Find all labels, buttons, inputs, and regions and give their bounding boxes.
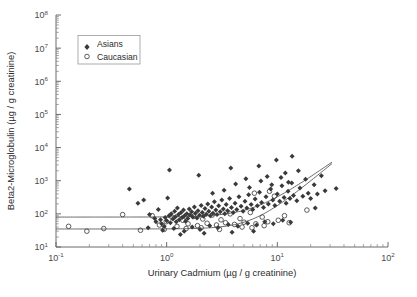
y-axis-tick-labels: 101102103104105106107108 bbox=[35, 9, 49, 253]
data-point bbox=[300, 194, 305, 199]
data-point bbox=[247, 185, 252, 190]
data-point bbox=[215, 212, 220, 217]
data-point bbox=[240, 225, 245, 230]
legend-label-caucasian: Caucasian bbox=[97, 52, 138, 62]
x-axis-title: Urinary Cadmium (µg / g creatinine) bbox=[148, 267, 297, 278]
data-point bbox=[294, 198, 299, 203]
data-point bbox=[227, 196, 232, 201]
data-point bbox=[290, 154, 295, 159]
data-point bbox=[233, 181, 238, 186]
data-point bbox=[147, 212, 152, 217]
data-point bbox=[192, 205, 197, 210]
x-tick-label: 100 bbox=[160, 251, 174, 263]
legend: Asians Caucasian bbox=[78, 36, 140, 65]
data-point bbox=[236, 194, 241, 199]
data-point bbox=[141, 198, 146, 203]
data-point bbox=[158, 217, 163, 222]
x-axis-ticks bbox=[56, 242, 388, 247]
data-point bbox=[253, 197, 258, 202]
data-point bbox=[216, 203, 221, 208]
data-point bbox=[305, 208, 310, 213]
data-point bbox=[287, 196, 292, 201]
data-point bbox=[241, 209, 246, 214]
data-point bbox=[120, 212, 125, 217]
y-tick-label: 105 bbox=[35, 108, 49, 120]
data-point bbox=[296, 168, 301, 173]
data-point bbox=[251, 229, 256, 234]
data-point bbox=[242, 199, 247, 204]
data-point bbox=[291, 193, 296, 198]
data-point bbox=[282, 213, 287, 218]
data-point bbox=[256, 163, 261, 168]
data-point bbox=[196, 173, 201, 178]
data-point bbox=[205, 201, 210, 206]
data-point bbox=[178, 232, 183, 237]
data-point bbox=[171, 226, 176, 231]
data-point bbox=[272, 203, 277, 208]
data-point bbox=[212, 199, 217, 204]
data-point bbox=[222, 188, 227, 193]
data-point bbox=[271, 221, 276, 226]
data-point bbox=[252, 191, 257, 196]
x-axis-tick-labels: 10-1100101102 bbox=[48, 251, 395, 263]
data-point bbox=[229, 205, 234, 210]
y-tick-label: 108 bbox=[35, 9, 49, 21]
data-point bbox=[203, 206, 208, 211]
data-point bbox=[312, 182, 317, 187]
data-point bbox=[274, 158, 279, 163]
scatter-plot-figure: 101102103104105106107108 10-1100101102 A… bbox=[0, 0, 417, 297]
data-point bbox=[246, 192, 251, 197]
y-axis-title: Beta2-Microglobulin (µg / g creatinine) bbox=[5, 52, 16, 211]
data-point bbox=[239, 204, 244, 209]
lower-fit bbox=[56, 164, 332, 229]
data-point bbox=[135, 201, 140, 206]
data-point bbox=[269, 182, 274, 187]
data-point bbox=[260, 215, 265, 220]
data-point bbox=[280, 218, 285, 223]
data-point bbox=[265, 174, 270, 179]
data-point bbox=[315, 191, 320, 196]
data-point bbox=[209, 205, 214, 210]
y-tick-label: 107 bbox=[35, 42, 49, 54]
data-point bbox=[231, 210, 236, 215]
data-point bbox=[313, 206, 318, 211]
data-point bbox=[219, 198, 224, 203]
legend-label-asians: Asians bbox=[97, 39, 123, 49]
data-points-asians bbox=[127, 154, 339, 237]
data-point bbox=[284, 201, 289, 206]
data-point bbox=[283, 171, 288, 176]
data-point bbox=[297, 186, 302, 191]
data-point bbox=[224, 202, 229, 207]
y-tick-label: 106 bbox=[35, 75, 49, 87]
data-point bbox=[85, 229, 90, 234]
data-point bbox=[276, 218, 281, 223]
data-point bbox=[146, 225, 151, 230]
data-point bbox=[262, 223, 267, 228]
data-point bbox=[259, 200, 264, 205]
data-point bbox=[306, 191, 311, 196]
data-point bbox=[202, 231, 207, 236]
data-point bbox=[308, 196, 313, 201]
data-point bbox=[165, 196, 170, 201]
data-point bbox=[261, 205, 266, 210]
data-point bbox=[255, 203, 260, 208]
data-point bbox=[228, 166, 233, 171]
data-point bbox=[257, 190, 262, 195]
data-points-caucasian bbox=[66, 189, 309, 234]
data-point bbox=[334, 186, 339, 191]
data-point bbox=[268, 187, 273, 192]
data-point bbox=[258, 179, 263, 184]
data-point bbox=[219, 218, 224, 223]
y-tick-label: 101 bbox=[35, 241, 49, 253]
data-point bbox=[127, 187, 132, 192]
x-tick-label: 10-1 bbox=[48, 251, 64, 263]
data-point bbox=[156, 207, 161, 212]
y-tick-label: 103 bbox=[35, 175, 49, 187]
data-point bbox=[264, 194, 269, 199]
y-tick-label: 102 bbox=[35, 208, 49, 220]
data-point bbox=[167, 168, 172, 173]
data-point bbox=[233, 201, 238, 206]
plot-canvas: 101102103104105106107108 10-1100101102 A… bbox=[0, 0, 417, 297]
x-tick-label: 102 bbox=[381, 251, 395, 263]
data-point bbox=[243, 176, 248, 181]
